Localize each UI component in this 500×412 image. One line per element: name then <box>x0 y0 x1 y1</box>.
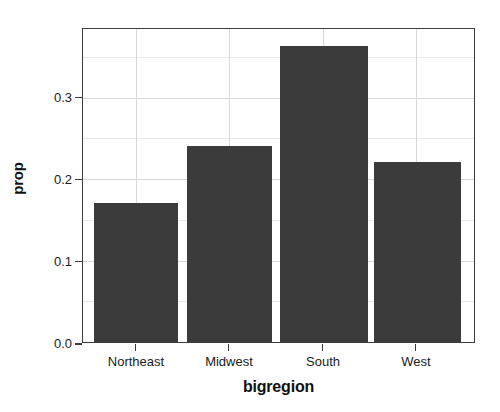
x-axis-title: bigregion <box>82 378 475 396</box>
gridline-horizontal-major <box>83 342 474 343</box>
y-tick-label: 0.0 <box>28 337 72 350</box>
x-tick-label-west: West <box>401 355 430 368</box>
x-tick-label-northeast: Northeast <box>108 355 164 368</box>
y-tick-mark <box>75 179 82 180</box>
bar-midwest[interactable] <box>187 146 272 342</box>
bar-chart-figure: prop 0.3 0.2 0.1 0.0 Nor <box>0 0 500 412</box>
y-axis-tick-labels: 0.3 0.2 0.1 0.0 <box>0 0 72 412</box>
x-tick-label-south: South <box>306 355 340 368</box>
y-tick-mark <box>75 97 82 98</box>
y-tick-label: 0.3 <box>28 91 72 104</box>
bar-northeast[interactable] <box>94 203 178 342</box>
bar-west[interactable] <box>374 162 461 342</box>
x-tick-mark <box>322 344 323 351</box>
x-tick-mark <box>228 344 229 351</box>
y-tick-mark <box>75 261 82 262</box>
x-tick-label-midwest: Midwest <box>205 355 253 368</box>
x-tick-mark <box>415 344 416 351</box>
y-tick-label: 0.1 <box>28 255 72 268</box>
y-tick-label: 0.2 <box>28 173 72 186</box>
plot-area <box>82 28 475 343</box>
y-tick-mark <box>75 343 82 344</box>
x-tick-mark <box>135 344 136 351</box>
bar-south[interactable] <box>280 46 368 342</box>
